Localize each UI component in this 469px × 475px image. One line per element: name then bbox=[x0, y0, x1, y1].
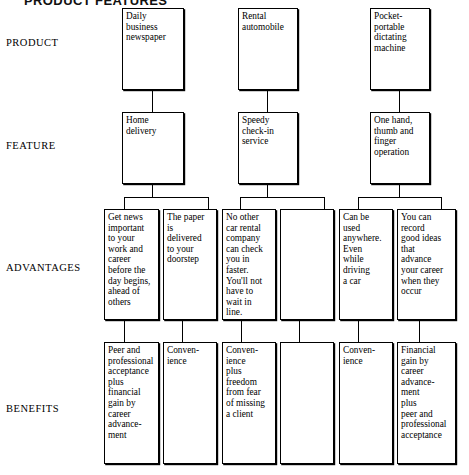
page-title: PRODUCT FEATURES bbox=[24, 0, 167, 8]
box-text: Can be used anywhere. Even while driving… bbox=[340, 210, 392, 286]
product-feature-benefit-diagram: PRODUCT FEATURES PRODUCT FEATURE ADVANTA… bbox=[0, 0, 469, 475]
box-text: Pocket- portable dictating machine bbox=[371, 9, 429, 53]
box-text: Daily business newspaper bbox=[123, 9, 183, 43]
row-label-product: PRODUCT bbox=[6, 37, 59, 48]
connector-advantage-benefit-6 bbox=[419, 320, 420, 342]
box-text bbox=[281, 210, 333, 212]
box-text: Home delivery bbox=[123, 113, 183, 136]
box-advantage-used-anywhere: Can be used anywhere. Even while driving… bbox=[339, 209, 393, 320]
box-advantage-fastest-checkin: No other car rental company can check yo… bbox=[222, 209, 276, 320]
connector-feature2-drop-a bbox=[240, 197, 241, 209]
connector-product-feature-2 bbox=[267, 90, 268, 112]
box-feature-one-hand-operation: One hand, thumb and finger operation bbox=[370, 112, 430, 184]
connector-advantage-benefit-3 bbox=[241, 320, 242, 342]
box-feature-speedy-checkin: Speedy check-in service bbox=[238, 112, 298, 184]
connector-feature1-drop-b bbox=[208, 197, 209, 209]
box-advantage-paper-delivered: The paper is delivered to your doorstep bbox=[163, 209, 217, 320]
box-product-rental-car: Rental automobile bbox=[238, 8, 298, 90]
box-benefit-convenience-2: Conven- ience bbox=[339, 342, 393, 464]
box-advantage-record-ideas: You can record good ideas that advance y… bbox=[397, 209, 456, 320]
row-label-feature: FEATURE bbox=[6, 140, 56, 151]
connector-advantage-benefit-4 bbox=[299, 320, 300, 342]
connector-advantage-benefit-2 bbox=[182, 320, 183, 342]
box-product-dictating-machine: Pocket- portable dictating machine bbox=[370, 8, 430, 90]
connector-advantage-benefit-1 bbox=[124, 320, 125, 342]
box-feature-home-delivery: Home delivery bbox=[122, 112, 184, 184]
box-text: The paper is delivered to your doorstep bbox=[164, 210, 216, 265]
box-benefit-peer-acceptance: Peer and professional acceptance plus fi… bbox=[104, 342, 159, 464]
box-text: Speedy check-in service bbox=[239, 113, 297, 147]
box-text: Conven- ience plus freedom from fear of … bbox=[223, 343, 275, 419]
box-product-newspaper: Daily business newspaper bbox=[122, 8, 184, 90]
connector-feature1-stem bbox=[152, 184, 153, 197]
box-benefit-blank bbox=[280, 342, 334, 464]
box-benefit-convenience-freedom: Conven- ience plus freedom from fear of … bbox=[222, 342, 276, 464]
box-text: Peer and professional acceptance plus fi… bbox=[105, 343, 158, 440]
box-text: Get news important to your work and care… bbox=[105, 210, 158, 307]
connector-feature1-bus bbox=[124, 197, 209, 198]
box-text: One hand, thumb and finger operation bbox=[371, 113, 429, 157]
connector-product-feature-3 bbox=[399, 90, 400, 112]
connector-feature2-bus bbox=[240, 197, 325, 198]
row-label-benefits: BENEFITS bbox=[6, 403, 59, 414]
connector-feature1-drop-a bbox=[124, 197, 125, 209]
box-advantage-blank bbox=[280, 209, 334, 320]
box-text bbox=[281, 343, 333, 345]
connector-feature2-drop-b bbox=[324, 197, 325, 209]
box-text: Conven- ience bbox=[164, 343, 216, 366]
connector-feature2-stem bbox=[267, 184, 268, 197]
connector-feature3-stem bbox=[399, 184, 400, 197]
box-text: You can record good ideas that advance y… bbox=[398, 210, 455, 297]
box-benefit-financial-gain: Financial gain by career advance- ment p… bbox=[397, 342, 456, 464]
box-advantage-get-news: Get news important to your work and care… bbox=[104, 209, 159, 320]
connector-feature3-bus bbox=[358, 197, 442, 198]
box-text: Rental automobile bbox=[239, 9, 297, 32]
connector-feature3-drop-b bbox=[441, 197, 442, 209]
box-benefit-convenience-1: Conven- ience bbox=[163, 342, 217, 464]
connector-product-feature-1 bbox=[152, 90, 153, 112]
connector-advantage-benefit-5 bbox=[358, 320, 359, 342]
connector-feature3-drop-a bbox=[358, 197, 359, 209]
row-label-advantages: ADVANTAGES bbox=[6, 262, 81, 273]
box-text: Financial gain by career advance- ment p… bbox=[398, 343, 455, 440]
box-text: No other car rental company can check yo… bbox=[223, 210, 275, 318]
box-text: Conven- ience bbox=[340, 343, 392, 366]
